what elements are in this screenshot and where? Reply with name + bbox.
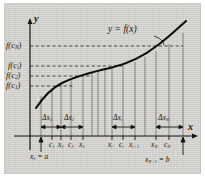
x-tick-label-c1: c1: [49, 141, 55, 150]
x-tick-xN-sub: N: [154, 144, 157, 149]
x-tick-label-c2: c2: [68, 141, 74, 150]
y-value-label-fc1: f(c1): [6, 81, 20, 90]
riemann-sum-figure: y x y = f(x) f(cN) f(ci) f(c2) f(c1) Δx1…: [0, 0, 205, 177]
delta-dxi-sub: i: [121, 117, 122, 122]
delta-label-dx1: Δx1: [42, 114, 52, 123]
delta-dxi-main: Δx: [113, 113, 121, 122]
y-value-fci-main: f(c: [8, 60, 17, 70]
delta-label-dx2: Δx2: [64, 114, 74, 123]
x-tick-cN-sub: N: [167, 144, 170, 149]
delta-dxN-main: Δx: [158, 113, 166, 122]
y-value-fc1-main: f(c: [6, 80, 15, 90]
endpoint-a-end: = a: [36, 152, 49, 161]
y-value-label-fci: f(ci): [8, 61, 21, 70]
delta-dx2-main: Δx: [64, 113, 72, 122]
x-tick-label-cN: cN: [164, 141, 170, 150]
curve-equation-label: y = f(x): [108, 25, 137, 35]
x-tick-c1-sub: 1: [52, 144, 54, 149]
value-dashed-lines: [30, 46, 183, 86]
x-tick-xi-sub: i: [111, 144, 112, 149]
x-tick-label-xN: xN: [151, 141, 157, 150]
x-tick-ci-sub: i: [122, 144, 123, 149]
y-value-fc1-end: ): [18, 80, 21, 90]
endpoint-label-a: x1 = a: [30, 153, 48, 162]
y-value-fcN-end: ): [18, 40, 21, 50]
delta-dx1-main: Δx: [42, 113, 50, 122]
x-tick-c2-sub: 2: [71, 144, 73, 149]
y-value-fci-end: ): [18, 60, 21, 70]
delta-dx1-sub: 1: [50, 117, 52, 122]
y-axis-label: y: [34, 14, 38, 24]
delta-label-dxi: Δxi: [113, 114, 122, 123]
x-axis-label: x: [188, 122, 193, 132]
x-tick-x2-sub: 2: [61, 144, 63, 149]
y-value-fc2-end: ): [18, 70, 21, 80]
y-value-fc2-main: f(c: [6, 70, 15, 80]
y-value-fcN-main: f(c: [6, 40, 15, 50]
y-axis-arrowhead: [28, 18, 33, 24]
x-tick-label-x2: x2: [58, 141, 64, 150]
x-tick-label-x3: x3: [79, 141, 85, 150]
x-tick-xi1-sub: i+1: [132, 144, 139, 149]
delta-dx2-sub: 2: [72, 117, 74, 122]
x-tick-label-xi: xi: [108, 141, 113, 150]
x-tick-label-ci: ci: [119, 141, 124, 150]
x-axis-arrowhead: [192, 134, 198, 139]
y-value-label-fc2: f(c2): [6, 71, 20, 80]
y-value-label-fcN: f(cN): [6, 41, 21, 50]
x-tick-x3-sub: 3: [82, 144, 84, 149]
endpoint-label-b: xN+1 = b: [145, 156, 169, 165]
endpoint-b-end: = b: [157, 155, 170, 164]
delta-dxN-sub: N: [166, 117, 169, 122]
endpoint-b-sub: N+1: [148, 159, 157, 164]
delta-label-dxN: ΔxN: [158, 114, 169, 123]
x-tick-label-xi1: xi+1: [129, 141, 139, 150]
figure-graphics: [0, 0, 205, 177]
